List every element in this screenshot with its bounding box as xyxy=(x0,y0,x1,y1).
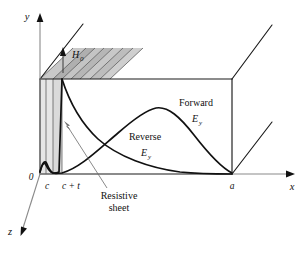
z-axis-label: z xyxy=(7,226,12,237)
figure-root: y x z 0 c c + t a H 0 Forward E y Revers… xyxy=(0,0,308,253)
h0-subscript: 0 xyxy=(80,55,84,63)
reverse-label: Reverse xyxy=(129,131,162,142)
y-axis-label: y xyxy=(24,11,30,22)
reverse-field-subscript: y xyxy=(147,153,152,161)
box-receding-edge-bottom-right xyxy=(232,122,272,174)
x-axis-label: x xyxy=(289,181,295,192)
box-receding-edge-right xyxy=(232,25,272,79)
slab-front-light xyxy=(40,79,53,174)
forward-field-subscript: y xyxy=(198,119,203,127)
waveguide-field-diagram: y x z 0 c c + t a H 0 Forward E y Revers… xyxy=(0,0,308,253)
z-axis-arrowhead xyxy=(21,227,28,237)
forward-label: Forward xyxy=(179,97,213,108)
origin-label: 0 xyxy=(29,172,34,182)
reverse-field-label: E xyxy=(140,147,147,158)
resistive-sheet-leader xyxy=(64,121,107,188)
x-axis-arrowhead xyxy=(286,171,295,178)
tick-label-c: c xyxy=(45,181,50,191)
resistive-sheet-label-group: Resistive sheet xyxy=(101,190,138,213)
reverse-label-group: Reverse E y xyxy=(129,131,162,161)
h0-label: H xyxy=(71,49,80,60)
tick-label-a: a xyxy=(230,181,235,191)
forward-field-label: E xyxy=(191,113,198,124)
y-axis-arrowhead xyxy=(37,13,44,22)
resistive-sheet-label-line1: Resistive xyxy=(101,190,138,201)
resistive-sheet-label-line2: sheet xyxy=(109,202,130,213)
tick-label-c-plus-t: c + t xyxy=(62,181,80,191)
waveguide-box xyxy=(40,24,272,174)
z-axis xyxy=(23,174,40,228)
